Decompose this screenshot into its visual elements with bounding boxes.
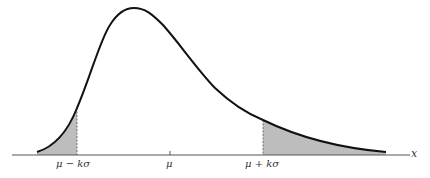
x-axis-label: x [411,147,417,160]
density-diagram [0,0,430,178]
left-tail-shade [37,108,77,155]
tick-label-mu: μ [166,158,173,169]
tick-label-mu-minus-k-sigma: μ − kσ [56,158,90,169]
density-curve [37,8,386,152]
tick-label-mu-plus-k-sigma: μ + kσ [245,158,279,169]
